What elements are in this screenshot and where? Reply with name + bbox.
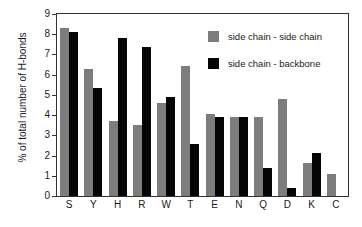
legend-entry: side chain - side chain	[208, 31, 322, 42]
bar-group	[327, 14, 345, 196]
bar-group	[109, 14, 127, 196]
bar	[109, 121, 118, 196]
bar-group	[181, 14, 199, 196]
x-axis-tick-label: K	[300, 199, 324, 211]
x-axis-labels: SYHRWTENQDKC	[57, 199, 348, 219]
bar	[254, 117, 263, 196]
bar	[133, 125, 142, 196]
y-axis-tick-label: 9	[34, 8, 50, 19]
y-axis-tick-label: 2	[34, 150, 50, 161]
y-axis-tick-label: 8	[34, 28, 50, 39]
x-axis-tick-label: W	[154, 199, 178, 211]
bar	[142, 47, 151, 196]
bar	[166, 97, 175, 196]
x-axis-tick-label: D	[275, 199, 299, 211]
bar	[118, 38, 127, 196]
chart-legend: side chain - side chainside chain - back…	[208, 31, 322, 85]
x-axis-tick-label: Q	[251, 199, 275, 211]
bar-group	[157, 14, 175, 196]
y-axis-tick-label: 1	[34, 170, 50, 181]
x-axis-tick-label: R	[130, 199, 154, 211]
x-axis-tick-label: Y	[81, 199, 105, 211]
bar	[287, 188, 296, 196]
bar-group	[133, 14, 151, 196]
bar	[327, 174, 336, 196]
bar	[312, 153, 321, 196]
bar-chart: % of total number of H-bonds 0123456789 …	[0, 0, 362, 227]
x-axis-tick-label: C	[324, 199, 348, 211]
y-axis-tick-label: 6	[34, 69, 50, 80]
bar	[278, 99, 287, 196]
bar	[215, 117, 224, 196]
x-axis-tick-label: H	[106, 199, 130, 211]
bar	[157, 103, 166, 196]
y-axis-tick-label: 4	[34, 109, 50, 120]
bar	[263, 168, 272, 196]
bar	[93, 88, 102, 196]
legend-entry: side chain - backbone	[208, 58, 322, 69]
bar	[230, 117, 239, 196]
bar	[239, 117, 248, 196]
bar	[60, 28, 69, 196]
x-axis-tick-label: E	[203, 199, 227, 211]
legend-label: side chain - side chain	[228, 31, 322, 42]
bar	[181, 66, 190, 196]
y-axis-tick-label: 7	[34, 48, 50, 59]
x-axis-tick-label: T	[178, 199, 202, 211]
bar	[84, 69, 93, 196]
y-axis-tick-label: 3	[34, 129, 50, 140]
x-axis-tick-label: N	[227, 199, 251, 211]
bar	[69, 32, 78, 196]
bar-group	[84, 14, 102, 196]
y-axis-title: % of total number of H-bonds	[17, 0, 28, 198]
bar-group	[60, 14, 78, 196]
legend-swatch	[208, 31, 219, 42]
bar	[206, 114, 215, 196]
x-axis-tick-label: S	[57, 199, 81, 211]
legend-label: side chain - backbone	[228, 58, 320, 69]
bar	[190, 144, 199, 196]
legend-swatch	[208, 58, 219, 69]
y-axis-tick-label: 0	[34, 190, 50, 201]
y-axis-tick-label: 5	[34, 89, 50, 100]
bar	[303, 163, 312, 196]
